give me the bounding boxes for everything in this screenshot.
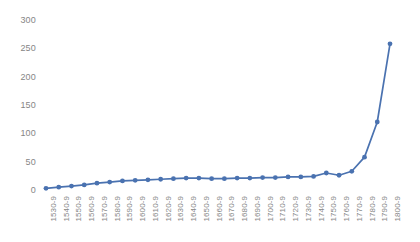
x-axis-tick-label: 1590-9 — [126, 196, 134, 222]
plot-area: 050100150200250300 1530-91540-91550-9156… — [0, 0, 420, 242]
x-axis-tick-label: 1630-9 — [177, 196, 185, 222]
series-markers-1 — [44, 41, 393, 190]
x-axis-tick-label: 1770-9 — [356, 196, 364, 222]
data-point-marker — [349, 169, 354, 174]
x-axis-tick-label: 1690-9 — [254, 196, 262, 222]
x-axis-tick-label: 1610-9 — [152, 196, 160, 222]
data-point-marker — [362, 155, 367, 160]
data-point-marker — [69, 184, 74, 189]
x-axis-tick-label: 1550-9 — [75, 196, 83, 222]
x-axis-tick-label: 1540-9 — [63, 196, 71, 222]
data-point-marker — [184, 176, 189, 181]
x-axis: 1530-91540-91550-91560-91570-91580-91590… — [0, 196, 420, 242]
x-axis-tick-label: 1650-9 — [203, 196, 211, 222]
x-axis-tick-label: 1720-9 — [292, 196, 300, 222]
x-axis-tick-label: 1710-9 — [279, 196, 287, 222]
data-point-marker — [286, 175, 291, 180]
data-point-marker — [120, 179, 125, 184]
data-point-marker — [44, 186, 49, 191]
x-axis-tick-label: 1680-9 — [241, 196, 249, 222]
data-point-marker — [298, 175, 303, 180]
line-chart: 050100150200250300 1530-91540-91550-9156… — [0, 0, 420, 242]
data-point-marker — [273, 175, 278, 180]
data-point-marker — [337, 173, 342, 178]
x-axis-tick-label: 1600-9 — [139, 196, 147, 222]
x-axis-tick-label: 1670-9 — [228, 196, 236, 222]
data-point-marker — [375, 120, 380, 125]
data-point-marker — [324, 171, 329, 176]
series-line-1 — [46, 44, 390, 189]
data-point-marker — [247, 176, 252, 181]
data-point-marker — [133, 178, 138, 183]
x-axis-tick-label: 1760-9 — [343, 196, 351, 222]
x-axis-tick-label: 1620-9 — [165, 196, 173, 222]
data-point-marker — [158, 177, 163, 182]
data-point-marker — [222, 176, 227, 181]
x-axis-tick-label: 1790-9 — [381, 196, 389, 222]
data-point-marker — [388, 41, 393, 46]
x-axis-tick-label: 1530-9 — [50, 196, 58, 222]
data-point-marker — [196, 176, 201, 181]
data-point-marker — [260, 175, 265, 180]
x-axis-tick-label: 1730-9 — [305, 196, 313, 222]
data-point-marker — [146, 177, 151, 182]
x-axis-tick-label: 1560-9 — [88, 196, 96, 222]
data-point-marker — [107, 180, 112, 185]
x-axis-tick-label: 1780-9 — [369, 196, 377, 222]
x-axis-tick-label: 1640-9 — [190, 196, 198, 222]
data-point-marker — [171, 176, 176, 181]
data-point-marker — [82, 183, 87, 188]
x-axis-tick-label: 1740-9 — [318, 196, 326, 222]
x-axis-tick-label: 1750-9 — [330, 196, 338, 222]
data-point-marker — [56, 185, 61, 190]
x-axis-tick-label: 1700-9 — [267, 196, 275, 222]
x-axis-tick-label: 1660-9 — [216, 196, 224, 222]
data-point-marker — [311, 174, 316, 179]
x-axis-tick-label: 1570-9 — [101, 196, 109, 222]
data-point-marker — [235, 176, 240, 181]
data-point-marker — [209, 176, 214, 181]
data-point-marker — [95, 181, 100, 186]
x-axis-tick-label: 1800-9 — [394, 196, 402, 222]
x-axis-tick-label: 1580-9 — [114, 196, 122, 222]
